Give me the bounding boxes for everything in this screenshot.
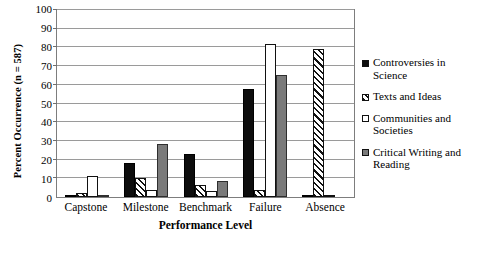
bar [254, 190, 265, 197]
hatched-square-icon [362, 94, 369, 101]
bar [206, 191, 217, 197]
bar [324, 195, 335, 197]
bar [302, 195, 313, 197]
bar [195, 185, 206, 197]
bar [124, 163, 135, 197]
y-axis-tick-label: 20 [41, 155, 52, 166]
bar [217, 181, 228, 197]
x-axis-tick-label: Milestone [116, 201, 176, 213]
bar-group [176, 10, 235, 197]
x-axis-tick-label: Failure [235, 201, 295, 213]
y-axis-tick-label: 60 [41, 79, 52, 90]
legend-item-label: Critical Writing and Reading [373, 146, 473, 171]
bar [135, 178, 146, 197]
y-axis-title: Percent Occurrence (n = 587) [12, 43, 23, 177]
bar [87, 176, 98, 197]
bar-group [295, 10, 354, 197]
gray-square-icon [362, 149, 369, 156]
y-axis-tick-label: 40 [41, 117, 52, 128]
solid-black-square-icon [362, 60, 369, 67]
white-square-icon [362, 115, 369, 122]
y-axis-tick-label: 10 [41, 174, 52, 185]
legend-item-label: Texts and Ideas [373, 90, 441, 103]
y-axis-tick-label: 70 [41, 60, 52, 71]
bar [157, 144, 168, 197]
y-axis-tick-labels: 0102030405060708090100 [24, 9, 52, 198]
plot-area [56, 9, 355, 198]
bar-group-bars [295, 10, 354, 197]
y-axis-tick-label: 90 [41, 22, 52, 33]
x-axis-tick-label: Absence [295, 201, 355, 213]
y-axis-tick-label: 0 [47, 193, 53, 204]
bar [243, 89, 254, 197]
x-axis-title: Performance Level [56, 219, 355, 231]
bar-chart-figure: Percent Occurrence (n = 587) 01020304050… [0, 0, 478, 257]
bar [313, 49, 324, 197]
y-axis-tick-label: 30 [41, 136, 52, 147]
bar [76, 193, 87, 197]
bar-group [116, 10, 175, 197]
y-axis-tick-label: 50 [41, 98, 52, 109]
bar-groups [57, 10, 354, 197]
x-axis-tick-labels: CapstoneMilestoneBenchmarkFailureAbsence [56, 201, 355, 213]
bar-group-bars [57, 10, 116, 197]
legend-item: Texts and Ideas [362, 90, 478, 103]
bar-group-bars [235, 10, 294, 197]
chart-legend: Controversies in ScienceTexts and IdeasC… [362, 56, 478, 180]
legend-item-label: Communities and Societies [373, 112, 473, 137]
bar-group-bars [176, 10, 235, 197]
y-axis-tick-label: 100 [36, 4, 53, 15]
bar [65, 195, 76, 197]
x-axis-tick-label: Benchmark [176, 201, 236, 213]
legend-item-label: Controversies in Science [373, 56, 473, 81]
bar [265, 44, 276, 197]
legend-item: Controversies in Science [362, 56, 478, 81]
bar [146, 190, 157, 197]
bar-group-bars [116, 10, 175, 197]
legend-item: Communities and Societies [362, 112, 478, 137]
bar [184, 154, 195, 197]
bar [276, 75, 287, 197]
bar [98, 195, 109, 197]
legend-item: Critical Writing and Reading [362, 146, 478, 171]
bar-group [235, 10, 294, 197]
bar-group [57, 10, 116, 197]
y-axis-tick-label: 80 [41, 41, 52, 52]
x-axis-tick-label: Capstone [56, 201, 116, 213]
